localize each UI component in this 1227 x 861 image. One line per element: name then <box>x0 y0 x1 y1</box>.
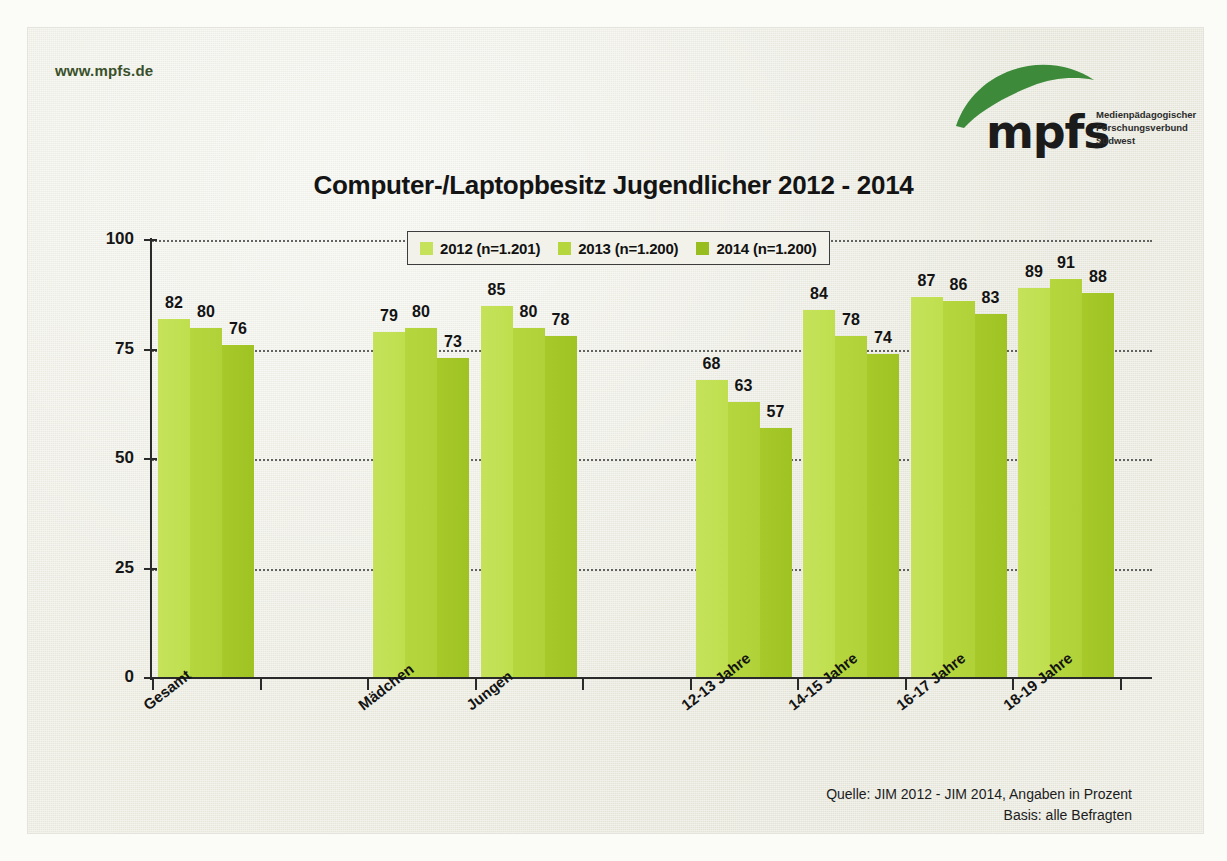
bar-2013-14-15-jahre[interactable] <box>835 336 867 678</box>
legend-swatch-2014-icon <box>696 242 709 255</box>
bar-2014-16-17-jahre[interactable] <box>975 314 1007 678</box>
legend-item-2013[interactable]: 2013 (n=1.200) <box>558 240 678 257</box>
legend-swatch-2012-icon <box>420 242 433 255</box>
y-tick-label-75: 75 <box>74 339 134 359</box>
y-tick-label-25: 25 <box>74 558 134 578</box>
x-axis-line <box>150 677 1152 679</box>
mpfs-subtitle-line-2: Forschungsverbund <box>1096 121 1196 134</box>
chart-legend: 2012 (n=1.201) 2013 (n=1.200) 2014 (n=1.… <box>407 231 830 265</box>
chart-title: Computer-/Laptopbesitz Jugendlicher 2012… <box>0 170 1227 201</box>
scanned-page: www.mpfs.de mpfs Medienpädagogischer For… <box>0 0 1227 861</box>
y-tick-mark-100 <box>144 239 157 241</box>
y-tick-label-50: 50 <box>74 448 134 468</box>
bar-2012-jungen[interactable] <box>481 306 513 678</box>
y-tick-mark-0 <box>144 677 157 679</box>
mpfs-logo: mpfs Medienpädagogischer Forschungsverbu… <box>948 62 1188 162</box>
bar-2013-16-17-jahre[interactable] <box>943 301 975 678</box>
source-note: Quelle: JIM 2012 - JIM 2014, Angaben in … <box>826 784 1132 826</box>
bar-2012-18-19-jahre[interactable] <box>1018 288 1050 678</box>
bar-2013-jungen[interactable] <box>513 328 545 678</box>
source-line-1: Quelle: JIM 2012 - JIM 2014, Angaben in … <box>826 784 1132 805</box>
bar-2014-18-19-jahre[interactable] <box>1082 293 1114 678</box>
bar-2012-12-13-jahre[interactable] <box>696 380 728 678</box>
x-tick-mark-1 <box>260 679 262 690</box>
y-tick-mark-25 <box>144 568 157 570</box>
legend-item-2014[interactable]: 2014 (n=1.200) <box>696 240 816 257</box>
bar-2013-18-19-jahre[interactable] <box>1050 279 1082 678</box>
bar-2012-14-15-jahre[interactable] <box>803 310 835 678</box>
bar-2013-mädchen[interactable] <box>405 328 437 678</box>
bar-value-label-2014-mädchen: 73 <box>429 333 477 351</box>
bar-2012-mädchen[interactable] <box>373 332 405 678</box>
bar-2013-12-13-jahre[interactable] <box>728 402 760 678</box>
bar-value-label-2014-12-13-jahre: 57 <box>752 403 800 421</box>
y-tick-mark-75 <box>144 349 157 351</box>
bar-2014-12-13-jahre[interactable] <box>760 428 792 678</box>
bar-value-label-2014-16-17-jahre: 83 <box>967 289 1015 307</box>
mpfs-subtitle-line-3: Südwest <box>1096 134 1196 147</box>
bar-value-label-2014-14-15-jahre: 74 <box>859 329 907 347</box>
bar-value-label-2014-gesamt: 76 <box>214 320 262 338</box>
bar-2013-gesamt[interactable] <box>190 328 222 678</box>
bar-value-label-2012-14-15-jahre: 84 <box>795 285 843 303</box>
bar-value-label-2014-18-19-jahre: 88 <box>1074 268 1122 286</box>
legend-item-2012[interactable]: 2012 (n=1.201) <box>420 240 540 257</box>
source-line-2: Basis: alle Befragten <box>826 805 1132 826</box>
y-tick-mark-50 <box>144 458 157 460</box>
bar-2014-mädchen[interactable] <box>437 358 469 678</box>
mpfs-subtitle: Medienpädagogischer Forschungsverbund Sü… <box>1096 108 1196 147</box>
y-tick-label-100: 100 <box>74 229 134 249</box>
bar-2014-gesamt[interactable] <box>222 345 254 678</box>
x-tick-mark-4 <box>582 679 584 690</box>
bar-value-label-2012-12-13-jahre: 68 <box>688 355 736 373</box>
mpfs-wordmark: mpfs <box>986 105 1109 159</box>
site-url-text: www.mpfs.de <box>55 62 153 79</box>
bar-2012-gesamt[interactable] <box>158 319 190 678</box>
bar-value-label-2012-jungen: 85 <box>473 281 521 299</box>
legend-swatch-2013-icon <box>558 242 571 255</box>
mpfs-subtitle-line-1: Medienpädagogischer <box>1096 108 1196 121</box>
y-tick-label-0: 0 <box>74 667 134 687</box>
x-tick-mark-9 <box>1120 679 1122 690</box>
bar-value-label-2013-gesamt: 80 <box>182 303 230 321</box>
bar-value-label-2013-12-13-jahre: 63 <box>720 377 768 395</box>
bar-2014-jungen[interactable] <box>545 336 577 678</box>
bar-value-label-2013-14-15-jahre: 78 <box>827 311 875 329</box>
bar-value-label-2014-jungen: 78 <box>537 311 585 329</box>
bar-value-label-2013-mädchen: 80 <box>397 303 445 321</box>
legend-label-2013: 2013 (n=1.200) <box>578 240 678 257</box>
bar-2014-14-15-jahre[interactable] <box>867 354 899 678</box>
legend-label-2014: 2014 (n=1.200) <box>716 240 816 257</box>
legend-label-2012: 2012 (n=1.201) <box>440 240 540 257</box>
bar-2012-16-17-jahre[interactable] <box>911 297 943 678</box>
